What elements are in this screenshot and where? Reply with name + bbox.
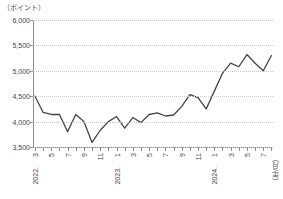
y-tick-label: 4,000	[12, 118, 30, 125]
x-tick-label: 7	[64, 153, 71, 157]
x-tick-mark	[165, 147, 166, 151]
gridline	[33, 20, 273, 21]
x-tick-mark	[214, 147, 215, 151]
x-tick-mark	[231, 147, 232, 151]
x-tick-mark	[247, 147, 248, 151]
line-chart: （ポイント） 6,0005,5005,0004,5004,0003,500 35…	[0, 0, 283, 199]
x-tick-label: 9	[178, 153, 185, 157]
x-tick-label: 5	[146, 153, 153, 157]
x-tick-mark	[255, 147, 256, 151]
x-tick-mark	[125, 147, 126, 151]
gridline	[33, 96, 273, 97]
x-tick-mark	[263, 147, 264, 151]
x-year-label: 2022.	[32, 167, 39, 185]
x-tick-mark	[84, 147, 85, 151]
x-tick-mark	[68, 147, 69, 151]
x-tick-mark	[182, 147, 183, 151]
x-tick-label: 1	[113, 153, 120, 157]
x-tick-label: 5	[48, 153, 55, 157]
x-tick-mark	[59, 147, 60, 151]
x-tick-label: 3	[227, 153, 234, 157]
x-tick-mark	[190, 147, 191, 151]
x-tick-mark	[117, 147, 118, 151]
x-tick-label: 7	[162, 153, 169, 157]
x-tick-mark	[43, 147, 44, 151]
x-tick-label: 5	[243, 153, 250, 157]
x-tick-mark	[108, 147, 109, 151]
y-tick-label: 4,500	[12, 93, 30, 100]
x-tick-mark	[239, 147, 240, 151]
x-tick-mark	[100, 147, 101, 151]
x-tick-label: 3	[129, 153, 136, 157]
x-tick-mark	[133, 147, 134, 151]
x-tick-mark	[206, 147, 207, 151]
x-tick-mark	[141, 147, 142, 151]
y-tick-label: 5,500	[12, 42, 30, 49]
y-tick-label: 6,000	[12, 17, 30, 24]
x-tick-mark	[76, 147, 77, 151]
x-year-label: 2023.	[113, 167, 120, 185]
x-tick-mark	[222, 147, 223, 151]
x-year-label: 2024.	[211, 167, 218, 185]
y-axis-labels: 6,0005,5005,0004,5004,0003,500	[0, 0, 30, 199]
data-series-line	[33, 20, 273, 147]
x-tick-mark	[51, 147, 52, 151]
x-tick-label: 9	[80, 153, 87, 157]
gridline	[33, 45, 273, 46]
y-tick-label: 3,500	[12, 144, 30, 151]
x-tick-label: 7	[260, 153, 267, 157]
gridline	[33, 71, 273, 72]
x-tick-mark	[157, 147, 158, 151]
gridline	[33, 122, 273, 123]
x-axis-unit-label: （年/月）	[271, 155, 281, 185]
x-tick-mark	[35, 147, 36, 151]
x-tick-label: 3	[32, 153, 39, 157]
x-tick-mark	[149, 147, 150, 151]
y-tick-label: 5,000	[12, 67, 30, 74]
gridline	[33, 147, 273, 148]
x-tick-mark	[92, 147, 93, 151]
x-tick-label: 11	[195, 153, 202, 160]
x-tick-label: 11	[97, 153, 104, 160]
plot-area	[33, 20, 273, 147]
x-tick-label: 1	[211, 153, 218, 157]
x-tick-mark	[174, 147, 175, 151]
x-tick-mark	[198, 147, 199, 151]
x-tick-mark	[271, 147, 272, 151]
